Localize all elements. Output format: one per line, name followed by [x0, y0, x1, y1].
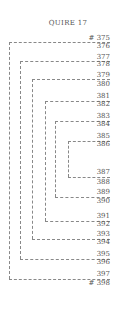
leaf-number: 386	[97, 140, 110, 148]
leaf-number: 382	[97, 100, 110, 108]
leaf-number: # 398	[89, 279, 110, 287]
leaf-number: 376	[97, 42, 110, 50]
leaf-number: 394	[97, 238, 110, 246]
quire-title: QUIRE 17	[0, 19, 136, 27]
leaf-number: 388	[97, 178, 110, 186]
leaf-number: 389	[97, 188, 110, 196]
leaf-number: 380	[97, 80, 110, 88]
leaf-number: 379	[97, 71, 110, 79]
leaf-number: 384	[97, 120, 110, 128]
leaf-number: 396	[97, 258, 110, 266]
bifolium-fold-line	[55, 121, 56, 197]
leaf-number: 383	[97, 112, 110, 120]
leaf-number: 390	[97, 197, 110, 205]
bifolium-top-line	[9, 42, 110, 43]
leaf-number: 378	[97, 60, 110, 68]
bifolium-fold-line	[68, 141, 69, 177]
leaf-number: # 375	[89, 34, 110, 42]
bifolium-fold-line	[45, 101, 46, 221]
leaf-number: 393	[97, 230, 110, 238]
leaf-number: 387	[97, 168, 110, 176]
bifolium-fold-line	[9, 42, 10, 279]
leaf-number: 397	[97, 270, 110, 278]
bifolium-fold-line	[32, 79, 33, 239]
bifolium-fold-line	[20, 61, 21, 259]
leaf-number: 395	[97, 250, 110, 258]
leaf-number: 385	[97, 132, 110, 140]
leaf-number: 392	[97, 220, 110, 228]
leaf-number: 391	[97, 212, 110, 220]
leaf-number: 381	[97, 92, 110, 100]
